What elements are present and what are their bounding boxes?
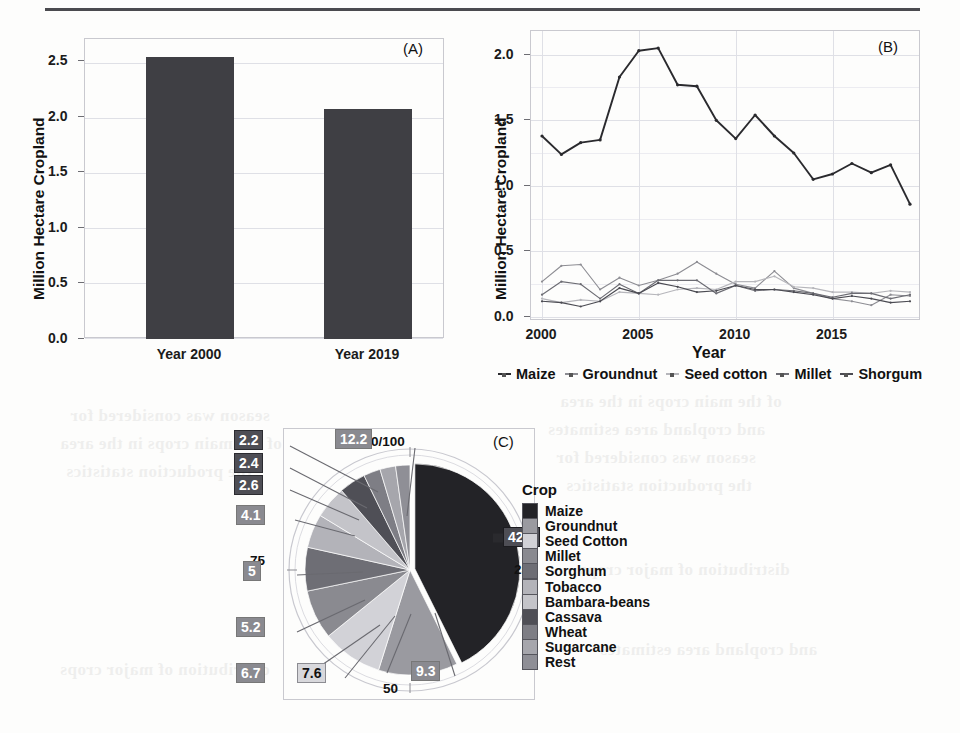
- panel-b-y-tickmark: [524, 316, 530, 317]
- crop-legend-label: Bambara-beans: [545, 594, 650, 610]
- panel-b-y-tickmark: [524, 185, 530, 186]
- crop-legend-item-sorghum: Sorghum: [522, 564, 650, 579]
- crop-legend-item-tobacco: Tobacco: [522, 579, 650, 594]
- panel-b-y-tick: 0.5: [494, 242, 513, 258]
- color-swatch-icon: [522, 654, 538, 670]
- panel-a-bar-chart: Million Hectare Cropland 0.00.51.01.52.0…: [0, 0, 470, 380]
- bar-year-2000: [146, 57, 234, 339]
- color-swatch-icon: [522, 563, 538, 579]
- panel-a-y-tick: 0.5: [48, 274, 67, 290]
- crop-legend-item-cassava: Cassava: [522, 609, 650, 624]
- color-swatch-icon: [522, 579, 538, 595]
- crop-legend-item-seed-cotton: Seed Cotton: [522, 533, 650, 548]
- crop-legend-label: Seed Cotton: [545, 533, 627, 549]
- panel-a-y-tickmark: [78, 171, 84, 172]
- color-swatch-icon: [522, 518, 538, 534]
- panel-b-y-tickmark: [524, 250, 530, 251]
- panel-a-tag: (A): [403, 40, 423, 57]
- panel-b-legend-label: Groundnut: [583, 366, 658, 382]
- panel-b-x-tick: 2005: [622, 326, 653, 342]
- crop-legend-label: Sorghum: [545, 563, 606, 579]
- crop-legend-item-maize: Maize: [522, 503, 650, 518]
- panel-b-line-chart: Million Hectare Cropland 0.00.51.01.52.0…: [470, 0, 960, 395]
- crop-legend-label: Tobacco: [545, 579, 602, 595]
- crop-legend-title: Crop: [522, 481, 650, 498]
- color-swatch-icon: [522, 594, 538, 610]
- crop-legend-label: Rest: [545, 654, 575, 670]
- color-swatch-icon: [522, 548, 538, 564]
- crop-legend-item-millet: Millet: [522, 549, 650, 564]
- crop-legend-label: Sugarcane: [545, 639, 617, 655]
- pie-value-label-5: 5: [243, 561, 261, 581]
- pie-value-label-6-7: 6.7: [236, 663, 265, 683]
- pie-value-label-4-1: 4.1: [236, 505, 265, 525]
- panel-a-y-tickmark: [78, 282, 84, 283]
- crop-legend-item-sugarcane: Sugarcane: [522, 640, 650, 655]
- panel-b-legend: MaizeGroundnutSeed cottonMilletShorgum: [498, 366, 922, 382]
- gridline: [85, 63, 443, 64]
- legend-line-icon: [565, 373, 578, 375]
- pie-value-label-5-2: 5.2: [236, 617, 265, 637]
- legend-line-icon: [776, 373, 789, 375]
- panel-c-pie-chart: 0/100 25 50 75 2.2 2.4 2.6 4.1: [225, 415, 960, 733]
- pie-value-label-12-2: 12.2: [335, 429, 372, 449]
- legend-line-icon: [498, 373, 511, 375]
- pie-value-label-7-6: 7.6: [297, 663, 326, 683]
- panel-a-y-tickmark: [78, 338, 84, 339]
- crop-legend-label: Wheat: [545, 624, 587, 640]
- panel-b-legend-label: Shorgum: [858, 366, 922, 382]
- ghost-line: of the main crops in the area: [560, 392, 782, 412]
- panel-c-tag: (C): [493, 433, 514, 450]
- panel-a-x-tick: Year 2000: [157, 346, 222, 362]
- pie-value-label-2-6: 2.6: [234, 475, 263, 495]
- legend-line-icon: [666, 373, 679, 375]
- panel-b-legend-item-groundnut: Groundnut: [565, 366, 658, 382]
- panel-a-y-tick: 2.5: [48, 52, 67, 68]
- figure-canvas: of the main crops in the area and cropla…: [0, 0, 960, 733]
- ring-tick-0-100: 0/100: [371, 434, 405, 449]
- pie-value-label-2-2: 2.2: [234, 430, 263, 450]
- crop-legend-item-rest: Rest: [522, 655, 650, 670]
- color-swatch-icon: [522, 503, 538, 519]
- color-swatch-icon: [522, 533, 538, 549]
- panel-b-plot-area: [530, 30, 920, 320]
- panel-a-y-tick: 0.0: [48, 330, 67, 346]
- panel-b-tag: (B): [878, 38, 898, 55]
- panel-b-y-tick: 1.5: [494, 111, 513, 127]
- crop-legend-item-groundnut: Groundnut: [522, 518, 650, 533]
- panel-a-plot-area: [84, 38, 444, 338]
- panel-a-y-tick: 1.0: [48, 219, 67, 235]
- panel-a-y-axis-title: Million Hectare Cropland: [30, 117, 48, 300]
- panel-b-series-layer: [531, 31, 921, 321]
- panel-b-legend-item-shorgum: Shorgum: [840, 366, 922, 382]
- panel-b-x-tick: 2010: [719, 326, 750, 342]
- color-swatch-icon: [522, 639, 538, 655]
- crop-legend-label: Cassava: [545, 609, 602, 625]
- panel-b-y-tick: 2.0: [494, 46, 513, 62]
- panel-b-y-axis-title: Million Hectare Cropland: [492, 117, 510, 300]
- color-swatch-icon: [522, 624, 538, 640]
- crop-legend-item-bambara-beans: Bambara-beans: [522, 594, 650, 609]
- panel-b-legend-item-seed-cotton: Seed cotton: [666, 366, 767, 382]
- panel-b-legend-label: Millet: [794, 366, 831, 382]
- panel-b-x-tick: 2015: [816, 326, 847, 342]
- color-swatch-icon: [522, 609, 538, 625]
- panel-b-legend-label: Maize: [516, 366, 556, 382]
- crop-legend-label: Groundnut: [545, 518, 617, 534]
- panel-b-x-tick: 2000: [525, 326, 556, 342]
- pie-value-label-2-4: 2.4: [234, 453, 263, 473]
- panel-a-x-tick: Year 2019: [335, 346, 400, 362]
- crop-legend: Crop MaizeGroundnutSeed CottonMilletSorg…: [522, 481, 650, 670]
- bar-year-2019: [324, 109, 412, 339]
- panel-a-y-tickmark: [78, 60, 84, 61]
- panel-b-legend-label: Seed cotton: [684, 366, 767, 382]
- panel-a-y-tick: 1.5: [48, 163, 67, 179]
- panel-b-y-tick: 1.0: [494, 177, 513, 193]
- crop-legend-label: Maize: [545, 503, 583, 519]
- pie-value-label-9-3: 9.3: [411, 661, 440, 681]
- crop-legend-rows: MaizeGroundnutSeed CottonMilletSorghumTo…: [522, 503, 650, 670]
- crop-legend-label: Millet: [545, 548, 581, 564]
- panel-b-y-tickmark: [524, 119, 530, 120]
- panel-b-legend-item-maize: Maize: [498, 366, 556, 382]
- panel-a-y-tickmark: [78, 227, 84, 228]
